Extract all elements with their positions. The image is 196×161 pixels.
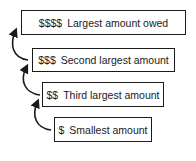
step-label: Third largest amount <box>63 89 159 101</box>
step-label: Largest amount owed <box>67 17 168 29</box>
step-symbol: $$ <box>47 89 59 101</box>
arrow-step-2-to-1 <box>13 32 28 60</box>
arrow-step-4-to-3 <box>35 103 51 130</box>
step-box-third: $$ Third largest amount <box>42 82 164 107</box>
step-symbol: $$$ <box>38 54 56 66</box>
step-symbol: $$$$ <box>39 17 62 29</box>
step-box-largest: $$$$ Largest amount owed <box>21 10 186 35</box>
arrow-step-3-to-2 <box>23 68 40 95</box>
step-box-smallest: $ Smallest amount <box>54 117 152 142</box>
step-symbol: $ <box>58 124 64 136</box>
step-label: Second largest amount <box>61 54 169 66</box>
step-label: Smallest amount <box>69 124 147 136</box>
step-box-second: $$$ Second largest amount <box>32 48 175 72</box>
